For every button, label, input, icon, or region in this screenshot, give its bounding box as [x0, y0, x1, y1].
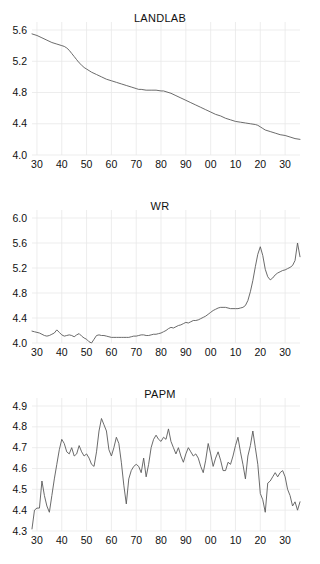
y-tick-label: 4.3 — [12, 525, 27, 537]
x-tick-label: 00 — [205, 346, 217, 358]
chart-plot-papm: 4.34.44.54.64.74.84.93040506070809000102… — [0, 376, 320, 564]
y-tick-label: 4.6 — [12, 462, 27, 474]
y-tick-label: 4.9 — [12, 400, 27, 412]
x-tick-label: 30 — [279, 346, 291, 358]
x-tick-label: 30 — [279, 158, 291, 170]
x-tick-label: 20 — [254, 346, 266, 358]
y-tick-label: 5.6 — [12, 24, 27, 36]
x-tick-label: 30 — [31, 346, 43, 358]
x-tick-label: 10 — [230, 158, 242, 170]
x-tick-label: 70 — [130, 534, 142, 546]
series-line-papm — [32, 419, 300, 529]
x-tick-label: 30 — [279, 534, 291, 546]
y-tick-label: 4.8 — [12, 420, 27, 432]
y-tick-label: 4.8 — [12, 86, 27, 98]
chart-panel-landlab: LANDLAB 4.04.44.85.25.630405060708090001… — [0, 0, 320, 188]
y-tick-label: 4.4 — [12, 504, 27, 516]
chart-panel-wr: WR 4.04.44.85.25.66.03040506070809000102… — [0, 188, 320, 376]
x-tick-label: 30 — [31, 534, 43, 546]
x-tick-label: 10 — [230, 346, 242, 358]
figure-page: LANDLAB 4.04.44.85.25.630405060708090001… — [0, 0, 320, 564]
x-tick-label: 00 — [205, 158, 217, 170]
y-tick-label: 6.0 — [12, 212, 27, 224]
x-tick-label: 80 — [155, 346, 167, 358]
x-tick-label: 40 — [56, 158, 68, 170]
x-tick-label: 00 — [205, 534, 217, 546]
y-tick-label: 4.7 — [12, 441, 27, 453]
x-tick-label: 80 — [155, 158, 167, 170]
y-tick-label: 5.2 — [12, 262, 27, 274]
x-tick-label: 40 — [56, 534, 68, 546]
y-tick-label: 4.0 — [12, 149, 27, 161]
y-tick-label: 4.5 — [12, 483, 27, 495]
y-tick-label: 4.4 — [12, 312, 27, 324]
x-tick-label: 60 — [106, 158, 118, 170]
x-tick-label: 50 — [81, 534, 93, 546]
x-tick-label: 70 — [130, 158, 142, 170]
x-tick-label: 60 — [106, 346, 118, 358]
x-tick-label: 40 — [56, 346, 68, 358]
y-tick-label: 4.0 — [12, 337, 27, 349]
x-tick-label: 10 — [230, 534, 242, 546]
chart-panel-papm: PAPM 4.34.44.54.64.74.84.930405060708090… — [0, 376, 320, 564]
chart-plot-wr: 4.04.44.85.25.66.03040506070809000102030 — [0, 188, 320, 376]
y-tick-label: 4.4 — [12, 117, 27, 129]
x-tick-label: 30 — [31, 158, 43, 170]
x-tick-label: 20 — [254, 534, 266, 546]
y-tick-label: 5.6 — [12, 237, 27, 249]
y-tick-label: 5.2 — [12, 55, 27, 67]
x-tick-label: 90 — [180, 346, 192, 358]
chart-plot-landlab: 4.04.44.85.25.63040506070809000102030 — [0, 0, 320, 188]
x-tick-label: 50 — [81, 158, 93, 170]
y-tick-label: 4.8 — [12, 287, 27, 299]
x-tick-label: 60 — [106, 534, 118, 546]
x-tick-label: 50 — [81, 346, 93, 358]
x-tick-label: 90 — [180, 534, 192, 546]
x-tick-label: 90 — [180, 158, 192, 170]
x-tick-label: 80 — [155, 534, 167, 546]
x-tick-label: 70 — [130, 346, 142, 358]
x-tick-label: 20 — [254, 158, 266, 170]
